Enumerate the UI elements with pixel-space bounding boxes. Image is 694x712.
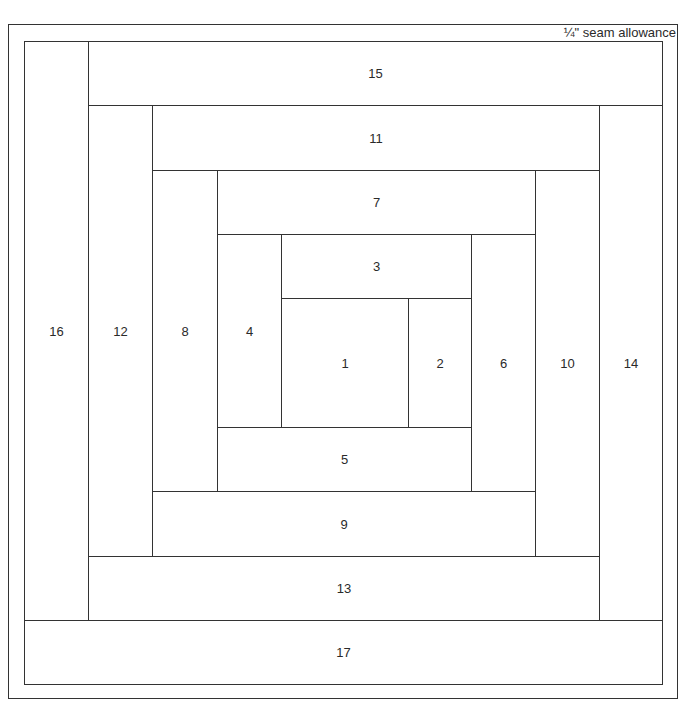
- piece-7: 7: [217, 170, 536, 235]
- piece-15: 15: [88, 41, 663, 106]
- piece-3: 3: [281, 234, 472, 299]
- piece-2: 2: [408, 298, 472, 428]
- piece-label: 2: [436, 357, 443, 370]
- piece-label: 4: [246, 325, 253, 338]
- piece-label: 7: [373, 196, 380, 209]
- piece-10: 10: [535, 170, 600, 557]
- piece-label: 6: [500, 357, 507, 370]
- piece-label: 5: [341, 453, 348, 466]
- piece-label: 15: [368, 67, 382, 80]
- piece-label: 14: [624, 357, 638, 370]
- piece-16: 16: [24, 41, 89, 621]
- piece-label: 3: [373, 260, 380, 273]
- piece-14: 14: [599, 105, 663, 621]
- piece-4: 4: [217, 234, 282, 428]
- piece-17: 17: [24, 620, 663, 685]
- piece-label: 13: [337, 582, 351, 595]
- piece-9: 9: [152, 491, 536, 557]
- piece-label: 17: [336, 646, 350, 659]
- piece-label: 10: [560, 357, 574, 370]
- piece-8: 8: [152, 170, 218, 492]
- piece-1: 1: [281, 298, 409, 428]
- seam-allowance-label: ¼" seam allowance: [564, 26, 676, 40]
- piece-label: 16: [49, 325, 63, 338]
- piece-12: 12: [88, 105, 153, 557]
- piece-label: 1: [341, 357, 348, 370]
- piece-label: 8: [181, 325, 188, 338]
- piece-label: 11: [369, 132, 383, 145]
- piece-11: 11: [152, 105, 600, 171]
- piece-5: 5: [217, 427, 472, 492]
- piece-6: 6: [471, 234, 536, 492]
- piece-13: 13: [88, 556, 600, 621]
- piece-label: 9: [340, 518, 347, 531]
- piece-label: 12: [113, 325, 127, 338]
